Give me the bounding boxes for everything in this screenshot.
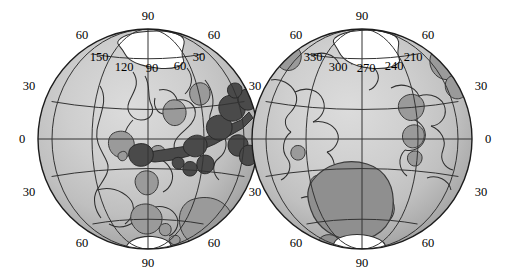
label-right-east-0: 0 <box>485 133 491 146</box>
label-right-east-30-south: 30 <box>475 186 488 199</box>
mars-hemispheres-figure: 90 60 60 150 30 120 90 60 30 0 30 60 60 … <box>0 0 510 278</box>
label-right-ne-60: 60 <box>422 29 435 42</box>
label-left-lon-60: 60 <box>174 60 187 73</box>
label-right-lon-270: 270 <box>357 62 376 75</box>
label-left-sw-60: 60 <box>76 237 89 250</box>
label-right-lon-210: 210 <box>404 51 423 64</box>
label-left-nw-60: 60 <box>76 29 89 42</box>
label-left-lon-90: 90 <box>146 62 159 75</box>
label-left-north-pole: 90 <box>142 10 155 23</box>
label-left-lon-120: 120 <box>115 61 134 74</box>
label-left-west-30-north: 30 <box>23 80 36 93</box>
label-right-lon-240: 240 <box>385 60 404 73</box>
label-left-west-30-south: 30 <box>23 186 36 199</box>
label-left-south-pole: 90 <box>142 257 155 270</box>
label-right-nw-60: 60 <box>290 29 303 42</box>
label-left-west-0: 0 <box>19 133 25 146</box>
label-right-south-pole: 90 <box>356 257 369 270</box>
label-left-lon-150: 150 <box>90 51 109 64</box>
label-right-north-pole: 90 <box>356 10 369 23</box>
label-right-sw-60: 60 <box>290 237 303 250</box>
label-right-lon-330: 330 <box>304 51 323 64</box>
label-left-se-60: 60 <box>208 237 221 250</box>
label-right-east-30-north: 30 <box>475 80 488 93</box>
label-right-lon-300: 300 <box>329 61 348 74</box>
label-right-se-60: 60 <box>422 237 435 250</box>
label-left-ne-60: 60 <box>208 29 221 42</box>
label-middle-upper-30: 30 <box>249 80 262 93</box>
label-middle-lower-30: 30 <box>249 186 262 199</box>
label-left-lon-30: 30 <box>193 51 206 64</box>
